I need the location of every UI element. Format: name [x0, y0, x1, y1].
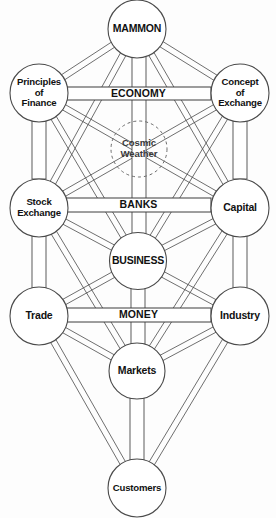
edge-mammon-concept: [159, 41, 218, 81]
node-label-mammon: MAMMON: [113, 22, 161, 34]
band-banks: BANKS: [66, 198, 211, 212]
edge-mammon-stock: [50, 52, 126, 185]
edge-stroke: [62, 332, 112, 360]
node-label-markets: Markets: [118, 364, 157, 376]
node-mammon[interactable]: MAMMON: [108, 0, 166, 58]
edge-stroke: [64, 47, 115, 80]
edge-stroke: [50, 52, 121, 182]
edge-business-industry: [161, 271, 217, 305]
node-label-cosmic: Weather: [121, 148, 158, 159]
edge-stroke: [154, 342, 228, 466]
node-markets[interactable]: Markets: [109, 343, 165, 399]
node-concept[interactable]: ConceptofExchange: [211, 64, 269, 122]
node-label-industry: Industry: [220, 309, 260, 321]
node-label-principles: Finance: [22, 97, 57, 108]
node-customers[interactable]: Customers: [108, 459, 166, 517]
edge-mammon-principles: [61, 42, 115, 80]
node-label-concept: Concept: [222, 76, 260, 87]
edge-stroke: [65, 277, 115, 305]
edge-stroke: [159, 327, 213, 356]
edge-stroke: [55, 55, 126, 185]
edge-capital-business: [161, 218, 217, 251]
band-label-money: MONEY: [119, 308, 158, 320]
node-principles[interactable]: PrinciplesofFinance: [10, 64, 68, 122]
node-label-concept: Exchange: [218, 97, 262, 108]
node-label-trade: Trade: [25, 309, 52, 321]
channel-capital-industry: [233, 236, 247, 288]
edge-stroke: [50, 342, 120, 465]
edge-stroke: [61, 42, 112, 75]
tree-of-economy-diagram: ECONOMYBANKSMONEY MAMMONPrinciplesofFina…: [0, 0, 276, 518]
edge-business-trade: [62, 272, 115, 305]
node-label-principles: Principles: [17, 76, 61, 87]
band-money: MONEY: [66, 308, 211, 322]
edge-stock-business: [62, 219, 115, 251]
node-label-capital: Capital: [223, 201, 257, 213]
band-label-economy: ECONOMY: [111, 87, 166, 99]
edge-stroke: [154, 52, 229, 182]
band-label-banks: BANKS: [120, 198, 158, 210]
node-label-cosmic: Cosmic: [122, 137, 157, 148]
edge-industry-markets: [159, 327, 216, 361]
node-industry[interactable]: Industry: [211, 287, 269, 345]
node-label-concept: of: [236, 87, 246, 98]
edge-trade-markets: [62, 327, 115, 360]
node-label-principles: of: [35, 87, 45, 98]
edge-stroke: [62, 224, 112, 251]
node-capital[interactable]: Capital: [211, 179, 269, 237]
node-stock[interactable]: StockExchange: [10, 179, 68, 237]
node-label-customers: Customers: [113, 482, 161, 493]
edge-stroke: [150, 115, 223, 236]
edge-stroke: [65, 327, 115, 355]
channel-stock-trade: [32, 236, 46, 288]
node-label-stock: Stock: [26, 196, 52, 207]
band-economy: ECONOMY: [66, 87, 211, 100]
edge-stroke: [161, 277, 214, 306]
edge-stroke: [164, 271, 217, 300]
edge-stroke: [162, 41, 217, 75]
node-label-business: BUSINESS: [112, 254, 164, 266]
edge-stroke: [162, 332, 216, 361]
channel-concept-capital: [233, 121, 247, 179]
edge-stroke: [164, 224, 217, 251]
edge-mammon-capital: [148, 52, 228, 185]
edge-stroke: [161, 218, 214, 245]
channel-principles-stock: [32, 121, 46, 179]
edge-stroke: [62, 272, 112, 300]
edge-stroke: [65, 219, 115, 246]
node-label-stock: Exchange: [17, 207, 61, 218]
node-business[interactable]: BUSINESS: [110, 233, 167, 290]
channel-markets-customers: [130, 398, 144, 460]
diagram-canvas: ECONOMYBANKSMONEY MAMMONPrinciplesofFina…: [0, 0, 276, 518]
node-trade[interactable]: Trade: [10, 287, 68, 345]
